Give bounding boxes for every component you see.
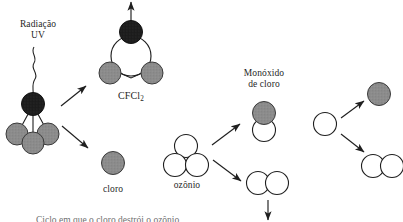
atom-oxygen [164, 154, 187, 177]
atom-chlorine [141, 62, 163, 84]
atom-carbon [120, 21, 143, 44]
cfcl2-label: CFCl2 [101, 90, 161, 103]
cfcl2-label-subscript: 2 [140, 95, 144, 103]
atom-oxygen [266, 172, 289, 195]
atom-carbon [22, 93, 45, 116]
free-chlorine-atom [102, 152, 125, 175]
released-chlorine-atom [368, 83, 391, 106]
chlorine-monoxide-molecule [253, 102, 276, 142]
arrow-ozone-to-clo [212, 124, 240, 145]
radiation-label-line1: Radiação [20, 19, 56, 29]
chlorine-monoxide-label-line1: Monóxido [244, 68, 284, 78]
arrow-ozone-to-o2 [213, 160, 241, 181]
atom-oxygen [314, 113, 337, 136]
arrow-o-to-chlorine [341, 101, 364, 118]
radiation-label-line2: UV [31, 30, 45, 40]
cfcl2-label-text: CFCl [118, 90, 140, 101]
oxygen-molecule-lower [247, 172, 289, 221]
arrow-cfc-to-chlorine [62, 126, 88, 148]
ozonio-label: ozônio [162, 180, 212, 191]
atom-chlorine [102, 152, 125, 175]
chlorine-monoxide-label: Monóxido de cloro [233, 68, 295, 89]
cfcl2-molecule [99, 2, 163, 84]
ozone-depletion-diagram: Radiação UV CFCl2 cloro ozônio Monóxido … [0, 0, 403, 222]
cfc-source-molecule [6, 93, 59, 155]
ozone-molecule [164, 135, 209, 177]
atom-chlorine [22, 132, 44, 154]
cloro-label: cloro [89, 184, 137, 195]
radiation-label: Radiação UV [6, 19, 70, 40]
atom-oxygen [186, 154, 209, 177]
chlorine-monoxide-label-line2: de cloro [248, 79, 280, 89]
atom-oxygen [381, 155, 403, 178]
uv-radiation-ray [33, 47, 36, 96]
arrow-cfc-to-cfcl2 [61, 86, 86, 106]
atom-chlorine [368, 83, 391, 106]
atom-chlorine [253, 102, 276, 125]
cut-off-caption: Ciclo em que o cloro destrói o ozônio [36, 215, 206, 222]
free-oxygen-atom [314, 113, 337, 136]
arrow-o-to-o2 [341, 134, 364, 152]
atom-chlorine [99, 62, 121, 84]
oxygen-molecule-right [362, 155, 403, 178]
